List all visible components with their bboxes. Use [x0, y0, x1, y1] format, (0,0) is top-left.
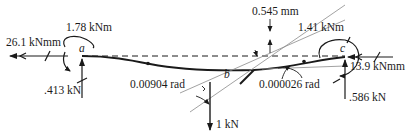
reaction-a-label: .413 kN [44, 84, 82, 96]
beam-deflection-diagram: a 1.78 kNm 26.1 kNmm .413 kN b 1 kN 0.00… [0, 0, 406, 137]
axial-c-label: 13.9 kNmm [350, 60, 405, 72]
point-c-label: c [340, 42, 345, 54]
deflection-label: 0.545 mm [252, 5, 299, 17]
moment-a-label: 1.78 kNm [66, 21, 112, 33]
point-b-label: b [224, 68, 230, 80]
load-b-label: 1 kN [216, 118, 239, 130]
rotation-c-label: 0.000026 rad [259, 78, 320, 90]
axial-a-label: 26.1 kNmm [6, 36, 61, 48]
moment-c-label: 1.41 kNm [298, 21, 344, 33]
reaction-c-label: .586 kN [349, 91, 387, 103]
rotation-ab-label: 0.00904 rad [130, 78, 185, 90]
point-a-label: a [79, 42, 85, 54]
deflected-beam [82, 56, 345, 70]
